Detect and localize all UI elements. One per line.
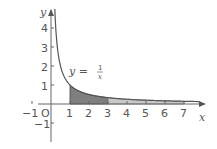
curve-y-equals-1-over-x — [55, 9, 199, 102]
curve-annotation: y = 1 x — [68, 64, 103, 81]
x-axis-arrow-icon — [199, 101, 206, 107]
x-tick-neg1: −1 — [22, 107, 38, 120]
svg-text:1: 1 — [98, 64, 102, 72]
x-tick-1: 1 — [66, 107, 73, 120]
x-tick-6: 6 — [161, 107, 168, 120]
x-tick-3: 3 — [104, 107, 111, 120]
y-tick-3: 3 — [41, 42, 48, 55]
chart-canvas: y x 4 3 2 1 −1 −1 O 1 2 3 4 5 6 7 y = 1 … — [0, 0, 217, 149]
svg-text:x: x — [98, 73, 102, 81]
x-tick-7: 7 — [180, 107, 187, 120]
y-tick-4: 4 — [41, 22, 48, 35]
x-tick-2: 2 — [85, 107, 92, 120]
x-axis-label: x — [199, 111, 206, 124]
y-axis-arrow-icon — [48, 9, 54, 16]
y-axis-label: y — [39, 6, 47, 19]
origin-label: O — [41, 107, 50, 120]
y-tick-1: 1 — [41, 80, 48, 93]
svg-text:y =: y = — [68, 65, 88, 78]
y-tick-2: 2 — [41, 61, 48, 74]
x-tick-5: 5 — [142, 107, 149, 120]
x-tick-4: 4 — [123, 107, 130, 120]
